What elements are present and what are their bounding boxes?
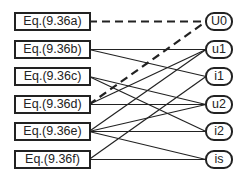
- edge-b-i1: [89, 50, 206, 77]
- equation-box-b: Eq.(9.36b): [14, 40, 91, 59]
- equation-box-c: Eq.(9.36c): [14, 67, 91, 86]
- variable-node-i2: i2: [205, 122, 233, 141]
- variable-node-U0: U0: [205, 12, 233, 31]
- variable-node-is: is: [205, 150, 233, 169]
- edge-d-u1: [89, 50, 206, 105]
- equation-box-a: Eq.(9.36a): [14, 12, 91, 31]
- variable-node-i1: i1: [205, 67, 233, 86]
- variable-node-u1: u1: [205, 40, 233, 59]
- edge-e-is: [89, 132, 206, 160]
- equation-box-e: Eq.(9.36e): [14, 122, 91, 141]
- variable-node-u2: u2: [205, 95, 233, 114]
- equation-box-f: Eq.(9.36f): [14, 150, 91, 169]
- edge-f-i1: [89, 77, 206, 160]
- equation-box-d: Eq.(9.36d): [14, 95, 91, 114]
